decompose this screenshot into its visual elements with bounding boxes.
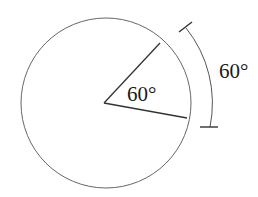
central-angle-label: 60° xyxy=(127,82,156,106)
arc-tick-top xyxy=(179,22,192,32)
circle-central-angle-diagram: 60° 60° xyxy=(0,0,258,197)
arc-angle-label: 60° xyxy=(219,59,248,83)
arc-dimension-line xyxy=(186,28,212,127)
